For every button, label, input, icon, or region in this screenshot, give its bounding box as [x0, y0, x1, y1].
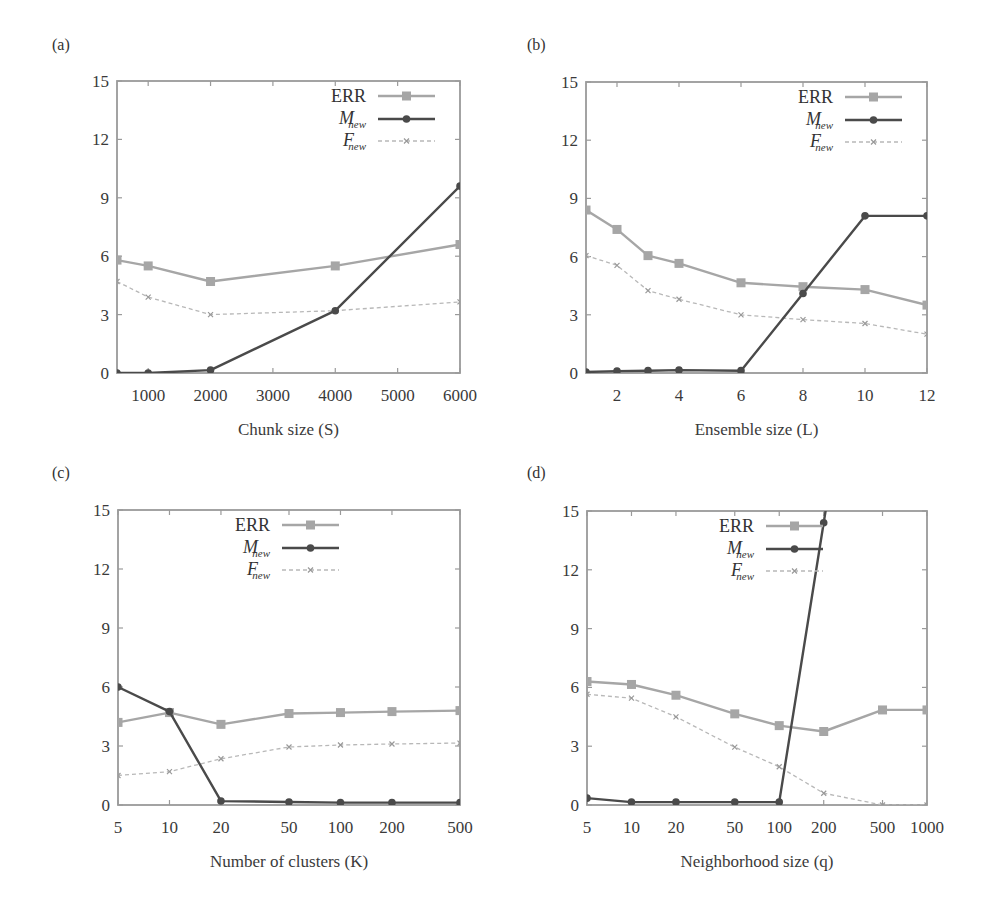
- series-group: [113, 182, 465, 376]
- legend-marker: [870, 116, 878, 124]
- m-new-marker: [217, 797, 225, 805]
- err-marker: [923, 705, 932, 714]
- y-tick-label: 6: [571, 678, 580, 697]
- plot-frame: [587, 511, 927, 805]
- plot-frame: [586, 82, 927, 373]
- series-group: [582, 206, 932, 376]
- y-tick-label: 12: [561, 131, 578, 150]
- legend-marker: [791, 545, 799, 553]
- legend-item-m-new: newM: [726, 538, 823, 560]
- x-axis-label: Neighborhood size (q): [681, 852, 834, 871]
- legend-label: F: [730, 560, 743, 580]
- panel-a-chunk-size: (a)03691215100020003000400050006000Chunk…: [52, 36, 477, 439]
- err-marker: [878, 705, 887, 714]
- m-new-marker: [456, 182, 464, 190]
- y-tick-label: 3: [571, 737, 580, 756]
- legend-label: M: [805, 109, 822, 129]
- legend-label: F: [342, 130, 355, 150]
- x-tick-label: 10: [161, 818, 178, 837]
- legend-item-m-new: newM: [338, 108, 435, 130]
- m-new-marker: [799, 290, 807, 298]
- y-tick-label: 12: [93, 560, 110, 579]
- panel-b-ensemble-size: (b)0369121524681012Ensemble size (L)ERRn…: [527, 36, 936, 439]
- y-tick-label: 12: [562, 561, 579, 580]
- x-tick-label: 4: [675, 386, 684, 405]
- y-tick-label: 15: [93, 501, 110, 520]
- err-marker: [114, 718, 123, 727]
- x-tick-label: 1000: [131, 386, 165, 405]
- err-marker: [113, 256, 122, 265]
- panel-d-neighborhood-size: (d)0369121551020501002005001000Neighborh…: [527, 464, 944, 871]
- m-new-marker: [923, 212, 931, 220]
- legend: ERRnewMnewF: [798, 87, 902, 153]
- x-tick-label: 6: [737, 386, 746, 405]
- m-new-marker: [114, 683, 122, 691]
- x-tick-label: 6000: [443, 386, 477, 405]
- y-tick-label: 12: [92, 130, 109, 149]
- y-tick-label: 6: [102, 678, 111, 697]
- y-tick-label: 9: [570, 189, 579, 208]
- m-new-marker: [166, 708, 174, 716]
- figure: (a)03691215100020003000400050006000Chunk…: [0, 0, 990, 913]
- err-marker: [737, 278, 746, 287]
- x-axis-label: Ensemble size (L): [695, 420, 819, 439]
- y-tick-label: 15: [92, 72, 109, 91]
- series-group: [114, 683, 465, 806]
- y-tick-label: 9: [101, 189, 110, 208]
- legend-label: ERR: [719, 516, 754, 536]
- m-new-marker: [675, 366, 683, 374]
- legend-item-m-new: newM: [805, 109, 902, 131]
- m-new-marker: [583, 794, 591, 802]
- err-marker: [923, 301, 932, 310]
- err-marker: [730, 709, 739, 718]
- plot-frame: [117, 81, 460, 373]
- x-tick-label: 5: [114, 818, 123, 837]
- x-tick-label: 100: [328, 818, 354, 837]
- legend-item-f-new: newF: [809, 131, 902, 153]
- legend-marker: [306, 521, 315, 530]
- plot-frame: [118, 510, 460, 805]
- legend-label: ERR: [331, 86, 366, 106]
- y-tick-label: 0: [570, 364, 579, 383]
- y-tick-label: 9: [102, 619, 111, 638]
- y-tick-label: 0: [102, 796, 111, 815]
- series-line-f-new: [586, 256, 927, 335]
- legend-item-err: ERR: [798, 87, 902, 107]
- x-tick-label: 100: [766, 818, 792, 837]
- legend-item-f-new: newF: [246, 559, 339, 581]
- x-tick-label: 50: [281, 818, 298, 837]
- m-new-marker: [285, 798, 293, 806]
- m-new-marker: [207, 366, 215, 374]
- panel-label: (b): [527, 36, 546, 54]
- x-tick-label: 200: [811, 818, 837, 837]
- series-line-m-new: [587, 467, 833, 802]
- x-tick-label: 50: [726, 818, 743, 837]
- err-marker: [819, 727, 828, 736]
- x-tick-label: 2000: [194, 386, 228, 405]
- x-tick-label: 4000: [318, 386, 352, 405]
- m-new-marker: [861, 212, 869, 220]
- x-tick-label: 12: [919, 386, 936, 405]
- series-line-m-new: [117, 186, 460, 373]
- legend-item-m-new: newM: [242, 537, 339, 559]
- series-line-m-new: [586, 216, 927, 372]
- x-tick-label: 500: [870, 818, 896, 837]
- x-axis-label: Chunk size (S): [238, 420, 339, 439]
- x-tick-label: 1000: [910, 818, 944, 837]
- legend: ERRnewMnewF: [331, 86, 435, 152]
- legend-label: ERR: [235, 515, 270, 535]
- legend-item-err: ERR: [719, 516, 823, 536]
- legend-label: F: [809, 131, 822, 151]
- m-new-marker: [731, 798, 739, 806]
- y-tick-label: 15: [561, 73, 578, 92]
- f-new-marker: [777, 764, 782, 769]
- y-tick-label: 15: [562, 502, 579, 521]
- legend: ERRnewMnewF: [235, 515, 339, 581]
- legend-marker: [403, 115, 411, 123]
- x-tick-label: 2: [613, 386, 622, 405]
- err-marker: [285, 709, 294, 718]
- series-line-f-new: [587, 694, 927, 805]
- m-new-marker: [144, 369, 152, 377]
- f-new-marker: [673, 714, 678, 719]
- err-marker: [582, 206, 591, 215]
